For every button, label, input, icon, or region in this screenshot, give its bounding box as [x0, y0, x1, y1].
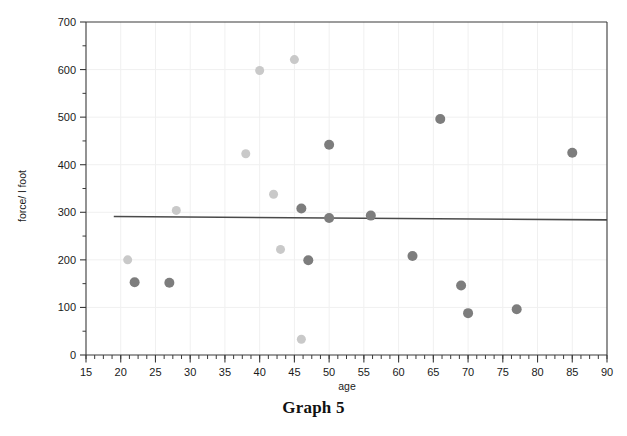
- data-point: [164, 278, 174, 288]
- y-tick-label: 300: [58, 206, 76, 218]
- data-point: [567, 148, 577, 158]
- x-tick-label: 25: [149, 366, 161, 378]
- x-tick-label: 60: [392, 366, 404, 378]
- y-tick-label: 0: [70, 349, 76, 361]
- data-point: [512, 304, 522, 314]
- x-tick-label: 30: [184, 366, 196, 378]
- y-tick-label: 100: [58, 301, 76, 313]
- figure-caption: Graph 5: [0, 398, 627, 418]
- data-point: [123, 255, 132, 264]
- gridlines: [86, 22, 607, 355]
- x-tick-label: 40: [254, 366, 266, 378]
- data-point: [130, 277, 140, 287]
- x-tick-label: 35: [219, 366, 231, 378]
- y-tick-label: 400: [58, 159, 76, 171]
- data-point: [456, 281, 466, 291]
- data-point: [463, 308, 473, 318]
- x-tick-label: 65: [427, 366, 439, 378]
- data-point: [366, 211, 376, 221]
- y-tick-label: 500: [58, 111, 76, 123]
- x-tick-label: 80: [531, 366, 543, 378]
- data-point: [407, 251, 417, 261]
- data-point: [276, 245, 285, 254]
- x-axis-tick-labels: 15202530354045505560657075808590: [80, 366, 613, 378]
- x-tick-label: 55: [358, 366, 370, 378]
- data-point: [269, 190, 278, 199]
- plot-frame: [86, 22, 607, 355]
- x-tick-label: 45: [288, 366, 300, 378]
- trendline: [114, 217, 607, 220]
- data-point: [241, 149, 250, 158]
- data-point: [324, 213, 334, 223]
- x-axis-ticks: [86, 355, 607, 363]
- data-point: [296, 203, 306, 213]
- figure-container: 0100200300400500600700 15202530354045505…: [0, 0, 627, 436]
- x-axis-title: age: [338, 380, 356, 392]
- data-point: [255, 66, 264, 75]
- data-point: [303, 255, 313, 265]
- x-tick-label: 90: [601, 366, 613, 378]
- data-point: [435, 114, 445, 124]
- x-tick-label: 75: [497, 366, 509, 378]
- y-axis-title: force/ l foot: [16, 170, 28, 222]
- data-point: [324, 140, 334, 150]
- data-points: [123, 55, 577, 344]
- x-tick-label: 70: [462, 366, 474, 378]
- y-tick-label: 200: [58, 254, 76, 266]
- y-axis-ticks: [80, 22, 86, 355]
- scatter-plot: 0100200300400500600700 15202530354045505…: [0, 0, 627, 398]
- x-tick-label: 50: [323, 366, 335, 378]
- data-point: [290, 55, 299, 64]
- trendline-segment: [114, 217, 607, 220]
- x-tick-label: 20: [115, 366, 127, 378]
- y-axis-tick-labels: 0100200300400500600700: [58, 16, 76, 361]
- x-tick-label: 15: [80, 366, 92, 378]
- y-tick-label: 700: [58, 16, 76, 28]
- data-point: [172, 206, 181, 215]
- y-tick-label: 600: [58, 64, 76, 76]
- data-point: [297, 335, 306, 344]
- x-tick-label: 85: [566, 366, 578, 378]
